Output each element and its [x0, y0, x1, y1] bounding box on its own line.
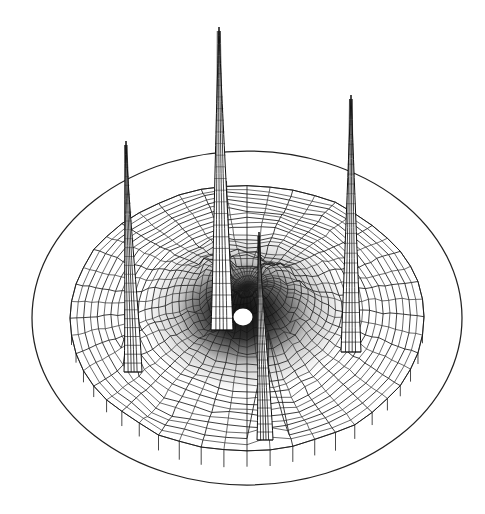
- figure-container: [0, 0, 485, 514]
- surface-plot-svg: [0, 0, 485, 514]
- center-hole: [234, 309, 253, 326]
